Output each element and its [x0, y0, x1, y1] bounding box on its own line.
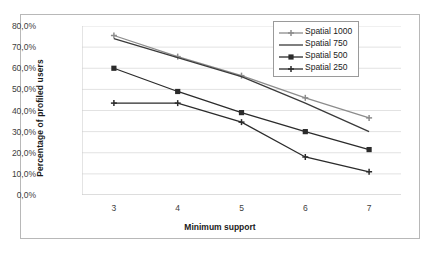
y-tick-label-40,0%: 40,0% [0, 106, 36, 116]
legend-label-spatial-750: Spatial 750 [305, 38, 348, 48]
data-point-spatial-500-x6-square [303, 129, 308, 134]
legend-label-spatial-500: Spatial 500 [305, 50, 348, 60]
legend-swatch-spatial-750 [278, 37, 304, 49]
legend-swatch-spatial-500 [278, 49, 304, 61]
y-tick-label-60,0%: 60,0% [0, 63, 36, 73]
data-point-spatial-500-x4 [175, 89, 180, 94]
data-point-spatial-1000-x7 [366, 115, 372, 121]
x-tick-label-4: 4 [163, 203, 193, 213]
legend-swatch-spatial-250 [278, 61, 304, 73]
series-line-spatial-500 [114, 68, 369, 149]
x-tick-label-6: 6 [290, 203, 320, 213]
data-point-spatial-250-x6 [302, 154, 308, 160]
data-point-spatial-1000-x3 [111, 33, 117, 39]
data-point-spatial-250-x3 [111, 100, 117, 106]
legend-label-spatial-250: Spatial 250 [305, 62, 348, 72]
legend-item-spatial-500[interactable]: Spatial 500 [278, 49, 352, 61]
data-point-spatial-500-x4-square [175, 89, 180, 94]
y-tick-label-80,0%: 80,0% [0, 21, 36, 31]
data-point-spatial-250-x4 [175, 100, 181, 106]
y-tick-label-0,0%: 0,0% [0, 190, 36, 200]
y-tick-label-30,0%: 30,0% [0, 127, 36, 137]
legend-swatch-spatial-1000 [278, 25, 304, 37]
legend-item-spatial-250[interactable]: Spatial 250 [278, 61, 352, 73]
data-point-spatial-500-x6 [303, 129, 308, 134]
legend-marker-spatial-500-square [288, 54, 293, 59]
y-tick-label-20,0%: 20,0% [0, 148, 36, 158]
x-tick-label-3: 3 [99, 203, 129, 213]
data-point-spatial-250-x5 [239, 119, 245, 125]
data-point-spatial-1000-x6 [302, 95, 308, 101]
legend-marker-spatial-1000 [288, 30, 294, 36]
chart-legend: Spatial 1000Spatial 750Spatial 500Spatia… [273, 21, 359, 77]
y-tick-label-10,0%: 10,0% [0, 169, 36, 179]
x-tick-label-7: 7 [354, 203, 384, 213]
y-tick-label-70,0%: 70,0% [0, 42, 36, 52]
legend-marker-spatial-250 [288, 66, 294, 72]
legend-item-spatial-750[interactable]: Spatial 750 [278, 37, 352, 49]
data-point-spatial-500-x5 [239, 110, 244, 115]
data-point-spatial-500-x3 [111, 66, 116, 71]
legend-label-spatial-1000: Spatial 1000 [305, 26, 352, 36]
data-point-spatial-500-x7-square [367, 147, 372, 152]
y-axis-title: Percentage of profiled users [35, 33, 45, 203]
x-tick-label-5: 5 [227, 203, 257, 213]
data-point-spatial-500-x5-square [239, 110, 244, 115]
x-axis-title: Minimum support [21, 222, 419, 232]
data-point-spatial-500-x3-square [111, 66, 116, 71]
chart-frame: Percentage of profiled users 0,0%10,0%20… [20, 14, 420, 239]
legend-marker-spatial-500 [288, 54, 293, 59]
y-tick-label-50,0%: 50,0% [0, 84, 36, 94]
data-point-spatial-500-x7 [367, 147, 372, 152]
legend-item-spatial-1000[interactable]: Spatial 1000 [278, 25, 352, 37]
